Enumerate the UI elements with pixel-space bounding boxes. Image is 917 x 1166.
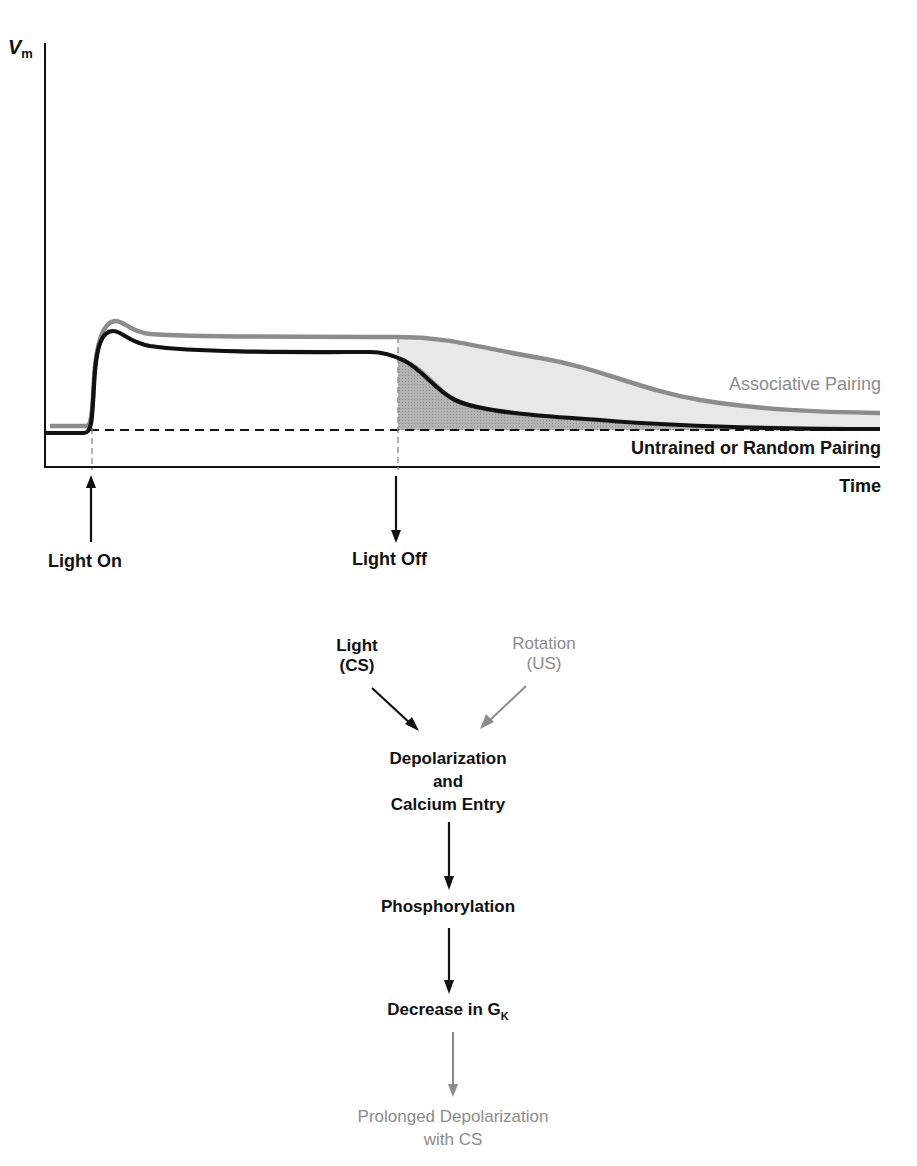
- rotation-node-text: Rotation: [512, 634, 575, 654]
- light-off-arrowhead-icon: [391, 530, 401, 543]
- rotation-us-node: Rotation (US): [512, 634, 575, 674]
- prolonged-depolarization-text: Prolonged Depolarization: [358, 1105, 549, 1128]
- light-on-label: Light On: [48, 551, 122, 572]
- calcium-entry-text: Calcium Entry: [389, 793, 506, 816]
- light-to-depol-arrow: [372, 688, 412, 725]
- phosphorylation-node: Phosphorylation: [381, 897, 515, 917]
- y-axis-label: Vm: [8, 36, 33, 61]
- decrease-text: Decrease in G: [387, 1000, 500, 1019]
- associative-pairing-label: Associative Pairing: [729, 374, 881, 395]
- depolarization-node: Depolarization and Calcium Entry: [389, 747, 506, 816]
- depolarization-text: Depolarization: [389, 747, 506, 770]
- light-node-text: Light: [336, 636, 378, 656]
- light-off-label: Light Off: [352, 549, 427, 570]
- gk-subscript: K: [501, 1010, 509, 1022]
- diagram-canvas: [0, 0, 917, 1166]
- depol-to-phos-arrowhead-icon: [444, 876, 454, 890]
- phos-to-decrease-arrowhead-icon: [444, 980, 454, 994]
- prolonged-depolarization-node: Prolonged Depolarization with CS: [358, 1105, 549, 1151]
- x-axis-label: Time: [839, 476, 881, 497]
- rotation-to-depol-arrowhead-icon: [480, 714, 494, 729]
- cs-node-text: (CS): [336, 656, 378, 676]
- light-cs-node: Light (CS): [336, 636, 378, 676]
- decrease-gk-node: Decrease in GK: [387, 1000, 508, 1022]
- decrease-to-prolonged-arrowhead-icon: [448, 1084, 458, 1097]
- with-cs-text: with CS: [358, 1128, 549, 1151]
- and-text: and: [389, 770, 506, 793]
- rotation-to-depol-arrow: [488, 686, 526, 722]
- light-on-arrowhead-icon: [86, 475, 96, 488]
- untrained-pairing-label: Untrained or Random Pairing: [631, 438, 881, 459]
- us-node-text: (US): [512, 654, 575, 674]
